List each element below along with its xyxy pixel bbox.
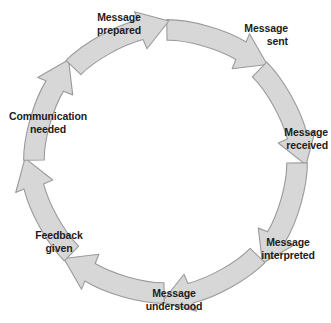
stage-label-communication-needed: Communication needed (6, 110, 90, 135)
stage-label-message-received: Message received (258, 126, 328, 151)
stage-label-message-sent: Message sent (220, 22, 288, 47)
cycle-arrows-graphic (0, 0, 331, 323)
stage-label-message-prepared: Message prepared (84, 11, 154, 36)
stage-label-feedback-given: Feedback given (24, 229, 94, 254)
stage-label-message-interpreted: Message interpreted (249, 236, 327, 261)
stage-label-message-understood: Message understood (134, 287, 214, 312)
communication-cycle-diagram: Message prepared Message sent Message re… (0, 0, 331, 323)
arrow-sent-to-received (247, 55, 326, 171)
